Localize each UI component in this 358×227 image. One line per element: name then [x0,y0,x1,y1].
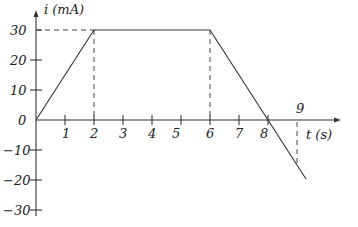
y-tick-label-neg30: −30 [3,203,30,218]
y-axis-arrow-icon [34,10,39,17]
current-time-chart: i (mA) t (s) 30 20 10 0 −10 −20 −30 1 2 … [0,0,358,227]
y-tick-label-0: 0 [18,113,26,128]
x-tick-label-5: 5 [172,126,180,141]
x-tick-label-6: 6 [206,126,214,141]
y-tick-label-neg20: −20 [3,173,30,188]
x-tick-label-9: 9 [296,101,304,116]
y-axis-label: i (mA) [44,2,84,17]
current-curve [36,30,306,179]
x-tick-label-2: 2 [89,126,98,141]
x-axis-label: t (s) [306,127,332,142]
y-tick-label-10: 10 [10,83,27,98]
y-tick-label-20: 20 [9,53,27,68]
x-tick-label-4: 4 [147,126,156,141]
x-tick-label-1: 1 [62,126,70,141]
x-tick-label-7: 7 [235,126,244,141]
x-axis-arrow-icon [334,118,341,123]
y-tick-label-30: 30 [10,23,27,38]
x-tick-label-3: 3 [119,126,127,141]
x-tick-label-8: 8 [260,126,268,141]
y-tick-label-neg10: −10 [3,143,30,158]
